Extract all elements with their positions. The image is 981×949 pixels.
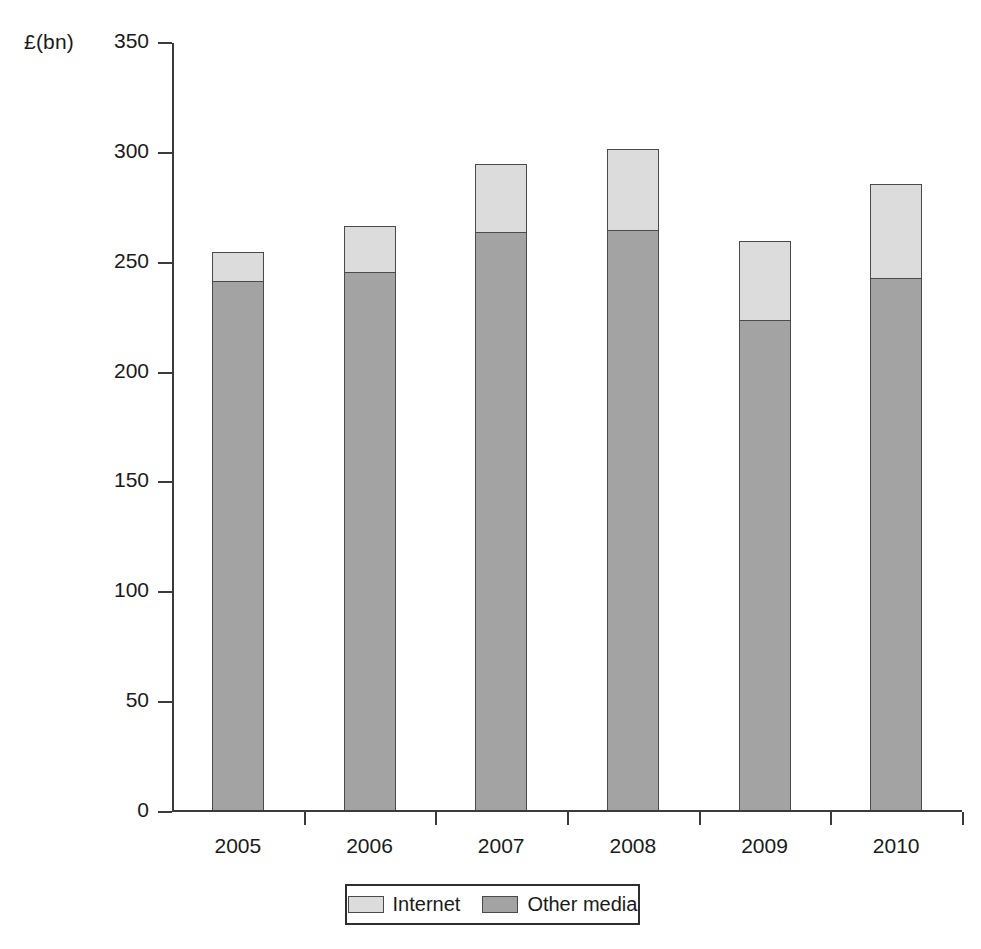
bar-2008[interactable] <box>607 149 659 810</box>
y-tick: 0 <box>158 811 172 813</box>
bar-segment-internet[interactable] <box>739 241 791 320</box>
x-tick <box>435 812 437 825</box>
y-tick-label: 350 <box>114 29 149 53</box>
x-tick-label: 2009 <box>705 834 825 858</box>
bar-2007[interactable] <box>475 164 527 810</box>
y-tick-label: 250 <box>114 249 149 273</box>
plot-area: 050100150200250300350 200520062007200820… <box>172 43 962 812</box>
y-tick: 100 <box>158 591 172 593</box>
legend-entry-other-media[interactable]: Other media <box>482 893 637 916</box>
y-tick: 350 <box>158 42 172 44</box>
y-tick-label: 300 <box>114 139 149 163</box>
bar-segment-internet[interactable] <box>475 164 527 232</box>
y-axis-line <box>172 43 174 812</box>
bar-segment-other-media[interactable] <box>475 232 527 810</box>
chart-legend: InternetOther media <box>345 884 640 925</box>
y-tick: 250 <box>158 262 172 264</box>
y-tick-label: 200 <box>114 359 149 383</box>
x-tick-label: 2010 <box>836 834 956 858</box>
y-tick-label: 0 <box>137 798 149 822</box>
x-tick-label: 2006 <box>310 834 430 858</box>
bar-segment-internet[interactable] <box>344 226 396 272</box>
x-tick-label: 2005 <box>178 834 298 858</box>
bar-segment-internet[interactable] <box>212 252 264 281</box>
y-axis-unit-label: £(bn) <box>24 30 74 54</box>
x-tick-label: 2008 <box>573 834 693 858</box>
bar-segment-other-media[interactable] <box>739 320 791 810</box>
x-tick <box>962 812 964 825</box>
y-tick: 50 <box>158 701 172 703</box>
legend-swatch <box>482 896 518 913</box>
stacked-bar-chart: £(bn) 050100150200250300350 200520062007… <box>0 0 981 949</box>
y-tick-label: 100 <box>114 578 149 602</box>
legend-entry-internet[interactable]: Internet <box>348 893 461 916</box>
bar-segment-internet[interactable] <box>607 149 659 230</box>
y-tick: 300 <box>158 152 172 154</box>
bar-2006[interactable] <box>344 226 396 810</box>
y-tick-label: 150 <box>114 468 149 492</box>
bar-segment-internet[interactable] <box>870 184 922 278</box>
y-tick-label: 50 <box>126 688 149 712</box>
y-tick: 200 <box>158 372 172 374</box>
bar-2009[interactable] <box>739 241 791 810</box>
bar-2010[interactable] <box>870 184 922 810</box>
x-tick <box>304 812 306 825</box>
legend-label: Other media <box>527 893 637 916</box>
x-tick <box>699 812 701 825</box>
y-tick: 150 <box>158 481 172 483</box>
bar-segment-other-media[interactable] <box>870 278 922 810</box>
bar-segment-other-media[interactable] <box>212 281 264 811</box>
x-tick-label: 2007 <box>441 834 561 858</box>
legend-label: Internet <box>393 893 461 916</box>
bar-2005[interactable] <box>212 252 264 810</box>
x-tick <box>567 812 569 825</box>
legend-swatch <box>348 896 384 913</box>
bar-segment-other-media[interactable] <box>344 272 396 810</box>
x-tick <box>830 812 832 825</box>
bar-segment-other-media[interactable] <box>607 230 659 810</box>
